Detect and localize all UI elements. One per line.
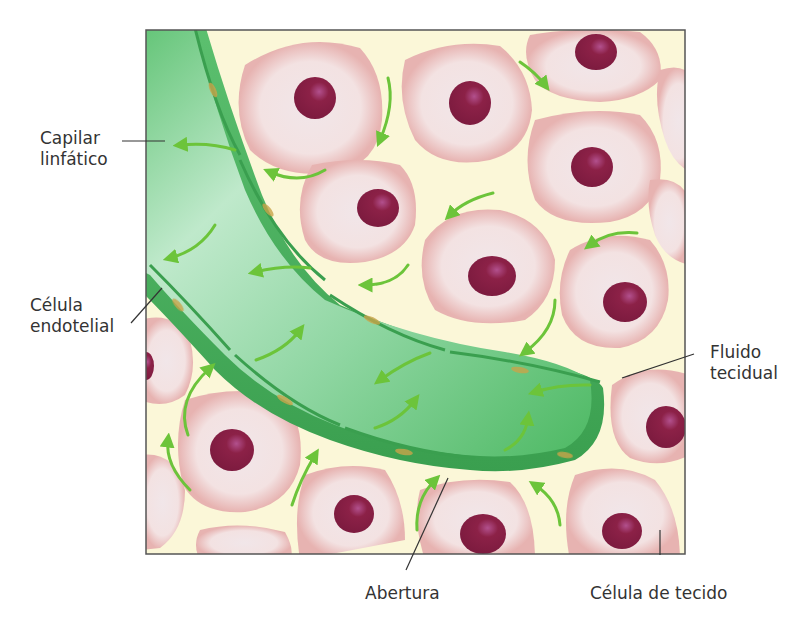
lymphatic-capillary-diagram [0,0,812,632]
tissue-cell [196,525,292,560]
label-capilar-linfatico: Capilar linfático [40,128,108,170]
label-celula-de-tecido-line1: Célula de tecido [590,583,727,604]
label-celula-endotelial-line1: Célula [30,295,114,316]
label-celula-endotelial-line2: endotelial [30,316,114,337]
label-capilar-linfatico-line1: Capilar [40,128,108,149]
label-celula-de-tecido: Célula de tecido [590,583,727,604]
label-fluido-tecidual-line2: tecidual [710,363,778,384]
label-abertura-line1: Abertura [365,583,440,604]
label-fluido-tecidual-line1: Fluido [710,342,778,363]
label-fluido-tecidual: Fluido tecidual [710,342,778,384]
label-capilar-linfatico-line2: linfático [40,149,108,170]
label-abertura: Abertura [365,583,440,604]
label-celula-endotelial: Célula endotelial [30,295,114,337]
